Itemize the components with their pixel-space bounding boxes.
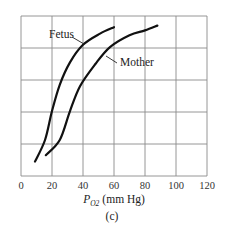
x-tick-label: 120 [199, 180, 215, 191]
x-tick-label: 0 [18, 180, 23, 191]
x-axis-label-units: (mm Hg) [102, 193, 145, 206]
x-tick-label: 100 [168, 180, 184, 191]
series-label-mother: Mother [120, 56, 154, 68]
x-axis-label-subscript: O2 [90, 199, 99, 208]
x-tick-label: 60 [109, 180, 120, 191]
x-tick-label: 40 [78, 180, 89, 191]
x-axis-tick-labels: 020406080100120 [18, 180, 215, 191]
x-axis-label-symbol: P [82, 193, 90, 205]
oxygen-dissociation-chart: 020406080100120 FetusMother PO2(mm Hg) (… [0, 0, 225, 232]
curve-mother [46, 26, 158, 156]
panel-label: (c) [106, 210, 119, 223]
x-axis-label: PO2(mm Hg) [82, 193, 145, 208]
x-tick-label: 20 [47, 180, 58, 191]
series-label-fetus: Fetus [49, 28, 74, 40]
leader-line-mother [106, 56, 117, 63]
curve-fetus [35, 27, 114, 161]
plot-curves [35, 26, 157, 162]
x-tick-label: 80 [140, 180, 151, 191]
